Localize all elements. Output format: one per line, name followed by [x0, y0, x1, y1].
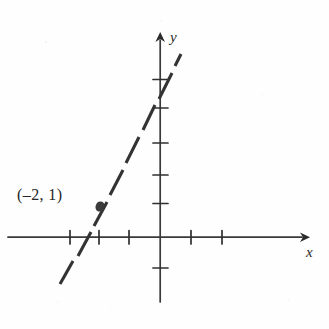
dash-segment: [175, 54, 181, 66]
point-coordinate-label: (–2, 1): [17, 186, 62, 204]
y-axis: [155, 32, 165, 302]
dash-segment: [60, 261, 73, 284]
dash-segment: [78, 232, 91, 256]
dash-segment: [110, 170, 123, 195]
figure-canvas: y x (–2, 1): [0, 0, 329, 329]
x-axis-label: x: [306, 244, 313, 261]
dashed-line-series: [60, 54, 181, 284]
dash-segment: [143, 105, 155, 130]
dash-segment: [126, 137, 139, 163]
paper-noise: [45, 20, 290, 310]
x-axis: [8, 232, 310, 242]
marked-point: [94, 200, 106, 213]
coordinate-plane-graph: [0, 0, 329, 329]
y-axis-label: y: [170, 29, 177, 46]
